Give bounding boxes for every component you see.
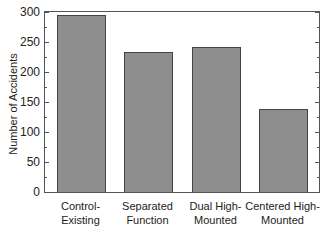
y-tick [45, 192, 49, 193]
bar-3 [192, 47, 241, 192]
plot-area [44, 11, 320, 193]
bar-2 [124, 52, 173, 192]
y-tick [315, 132, 319, 133]
y-tick [45, 42, 49, 43]
y-tick [317, 147, 319, 148]
y-tick [45, 117, 47, 118]
y-tick [317, 177, 319, 178]
y-tick-label: 100 [20, 126, 40, 138]
y-tick [317, 57, 319, 58]
y-tick [315, 162, 319, 163]
y-tick [45, 102, 49, 103]
y-tick [315, 102, 319, 103]
y-tick [45, 177, 47, 178]
y-tick [317, 117, 319, 118]
y-tick-label: 50 [27, 156, 40, 168]
x-tick-label: Centered High-Mounted [238, 199, 328, 227]
y-tick-label: 0 [33, 186, 40, 198]
y-tick [45, 87, 47, 88]
y-tick-label: 300 [20, 6, 40, 18]
y-tick [45, 72, 49, 73]
y-tick-label: 200 [20, 66, 40, 78]
y-tick [45, 57, 47, 58]
y-tick-label: 150 [20, 96, 40, 108]
bar-4 [259, 109, 308, 192]
y-tick [45, 132, 49, 133]
bar-1 [57, 15, 106, 192]
y-tick [315, 42, 319, 43]
y-tick [45, 147, 47, 148]
y-tick [317, 27, 319, 28]
y-tick [45, 12, 49, 13]
y-tick [315, 192, 319, 193]
y-tick [45, 162, 49, 163]
y-tick [315, 72, 319, 73]
y-tick-label: 250 [20, 36, 40, 48]
y-tick [45, 27, 47, 28]
y-tick [315, 12, 319, 13]
y-axis-label: Number of Accidents [7, 44, 19, 164]
y-tick [317, 87, 319, 88]
